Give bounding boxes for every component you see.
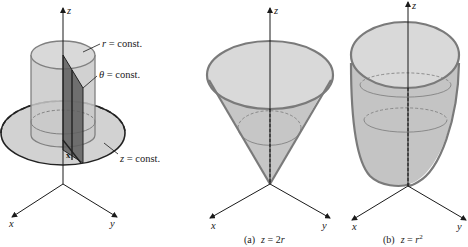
cone-z-axis-label: z	[273, 5, 278, 16]
r-const-label: r = const.	[102, 38, 142, 49]
cylindrical-surfaces-panel: z x y x r = const. θ = const. z = const.	[1, 5, 160, 229]
paraboloid-y-axis-label: y	[456, 221, 462, 232]
cone-y-axis-label: y	[321, 220, 327, 231]
point-x-label: x	[66, 150, 71, 160]
cone-panel: z x y (a)z = 2r	[207, 5, 333, 246]
paraboloid-panel: z x y (b)z = r2	[351, 0, 466, 246]
left-y-axis-label: y	[109, 218, 115, 229]
z-const-label: z = const.	[119, 153, 160, 164]
theta-const-label: θ = const.	[99, 69, 140, 80]
left-x-axis-label: x	[8, 218, 14, 229]
left-z-axis-label: z	[66, 5, 71, 16]
paraboloid-x-axis-label: x	[351, 221, 357, 232]
cone-caption: (a)z = 2r	[244, 234, 285, 246]
cone-x-axis-label: x	[210, 220, 216, 231]
paraboloid-z-axis-label: z	[411, 0, 416, 11]
figure-canvas: z x y x r = const. θ = const. z = const.…	[0, 0, 468, 247]
paraboloid-caption: (b)z = r2	[383, 233, 423, 246]
paraboloid-surface	[351, 22, 459, 186]
